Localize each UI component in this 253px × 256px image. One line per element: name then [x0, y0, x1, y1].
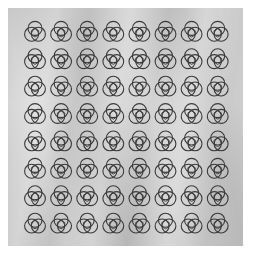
ring-motif	[181, 213, 202, 233]
ring-motif	[207, 213, 228, 233]
ring-motif	[51, 21, 72, 41]
ring-motif	[25, 104, 46, 124]
ring-motif	[207, 76, 228, 96]
ring-motif	[25, 21, 46, 41]
ring-motif	[207, 49, 228, 69]
ring-motif	[207, 186, 228, 206]
ring-motif	[181, 76, 202, 96]
ring-motif	[25, 158, 46, 178]
ring-motif	[207, 131, 228, 151]
ring-motif	[77, 131, 98, 151]
ring-motif	[181, 158, 202, 178]
ring-motif	[207, 158, 228, 178]
ring-motif	[25, 49, 46, 69]
ring-motif	[103, 21, 124, 41]
ring-motif	[103, 131, 124, 151]
ring-motif	[77, 186, 98, 206]
ring-motif	[103, 76, 124, 96]
ring-motif	[181, 131, 202, 151]
ring-motif	[103, 186, 124, 206]
ring-motif	[77, 21, 98, 41]
ring-motif	[103, 213, 124, 233]
ring-motif	[51, 104, 72, 124]
ring-motif	[155, 76, 176, 96]
ring-motif	[25, 186, 46, 206]
ring-motif	[25, 131, 46, 151]
ring-motif	[51, 76, 72, 96]
ring-motif	[207, 104, 228, 124]
ring-motif	[51, 131, 72, 151]
ring-motif	[181, 104, 202, 124]
ring-motif	[155, 186, 176, 206]
ring-motif	[77, 158, 98, 178]
ring-motif	[129, 49, 150, 69]
ring-motif	[155, 131, 176, 151]
ring-motif	[25, 76, 46, 96]
ring-motif	[51, 213, 72, 233]
ring-motif	[51, 158, 72, 178]
motif-grid	[0, 0, 253, 256]
ring-motif	[129, 21, 150, 41]
ring-motif	[77, 49, 98, 69]
ring-motif	[129, 158, 150, 178]
ring-motif	[25, 213, 46, 233]
ring-motif	[77, 76, 98, 96]
ring-motif	[51, 49, 72, 69]
ring-motif	[181, 49, 202, 69]
ring-motif	[155, 213, 176, 233]
ring-motif	[207, 21, 228, 41]
ring-motif	[181, 186, 202, 206]
ring-motif	[51, 186, 72, 206]
ring-motif	[129, 76, 150, 96]
ring-motif	[155, 158, 176, 178]
ring-motif	[155, 49, 176, 69]
ring-motif	[103, 158, 124, 178]
ring-motif	[103, 49, 124, 69]
ring-motif	[129, 213, 150, 233]
ring-motif	[129, 131, 150, 151]
ring-motif	[129, 186, 150, 206]
ring-motif	[103, 104, 124, 124]
ring-motif	[155, 104, 176, 124]
ring-motif	[181, 21, 202, 41]
ring-motif	[77, 104, 98, 124]
photo-canvas	[0, 0, 253, 256]
ring-motif	[155, 21, 176, 41]
ring-motif	[77, 213, 98, 233]
ring-motif	[129, 104, 150, 124]
